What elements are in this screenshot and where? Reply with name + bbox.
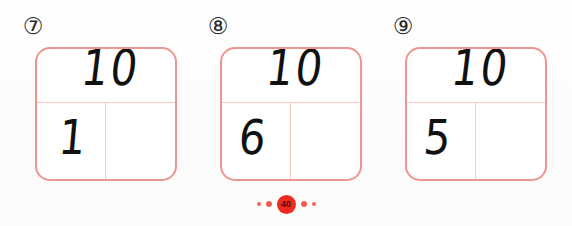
decorative-dot-icon <box>266 201 272 207</box>
place-value-box[interactable]: 10 5 <box>405 47 547 181</box>
total-value: 10 <box>448 49 513 96</box>
problem-index-label: ⑦ <box>20 13 46 39</box>
box-inner: 10 5 <box>407 49 545 179</box>
problem-item: ⑦ 10 1 <box>8 0 194 200</box>
horizontal-divider <box>222 102 360 103</box>
total-value: 10 <box>263 49 328 96</box>
decorative-dot-icon <box>312 202 316 206</box>
problem-index-label: ⑧ <box>205 13 231 39</box>
total-value: 10 <box>78 49 143 96</box>
horizontal-divider <box>407 102 545 103</box>
problem-item: ⑧ 10 6 <box>193 0 379 200</box>
decorative-dot-icon <box>301 201 307 207</box>
box-inner: 10 6 <box>222 49 360 179</box>
decorative-dot-icon <box>257 202 261 206</box>
part-value: 1 <box>57 109 89 165</box>
page-number-badge: 40 <box>0 193 572 215</box>
place-value-box[interactable]: 10 1 <box>35 47 177 181</box>
page-number-text: 40 <box>277 195 296 214</box>
horizontal-divider <box>37 102 175 103</box>
problem-item: ⑨ 10 5 <box>378 0 564 200</box>
part-value: 6 <box>236 109 268 165</box>
part-value: 5 <box>421 109 453 165</box>
vertical-divider <box>105 102 106 179</box>
place-value-box[interactable]: 10 6 <box>220 47 362 181</box>
box-inner: 10 1 <box>37 49 175 179</box>
worksheet-page: ⑦ 10 1 ⑧ 10 6 ⑨ 10 <box>0 0 572 226</box>
problem-index-label: ⑨ <box>390 13 416 39</box>
vertical-divider <box>290 102 291 179</box>
vertical-divider <box>475 102 476 179</box>
